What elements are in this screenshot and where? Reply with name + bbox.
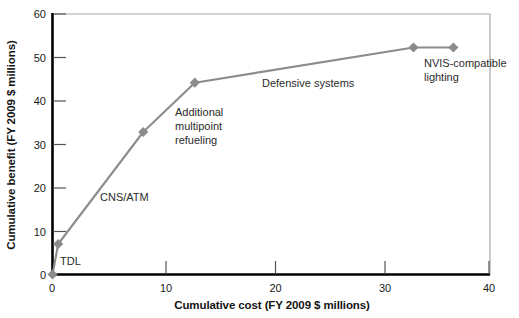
x-tick-label: 30 — [379, 282, 391, 294]
annotation-nvis-line1: NVIS-compatible — [424, 57, 507, 69]
data-point-marker — [408, 42, 418, 52]
x-tick-label: 0 — [49, 282, 55, 294]
series-line — [53, 48, 454, 275]
x-axis-title: Cumulative cost (FY 2009 $ millions) — [174, 299, 370, 311]
annotation-multipoint-line2: multipoint — [175, 120, 222, 132]
y-tick-labels: 60 50 40 30 20 10 0 — [34, 8, 46, 281]
y-tick-label: 50 — [34, 52, 46, 64]
annotation-multipoint-line1: Additional — [175, 106, 223, 118]
data-point-marker — [47, 269, 57, 279]
annotation-tdl: TDL — [60, 255, 81, 267]
plot-frame — [52, 14, 490, 275]
y-tick-label: 40 — [34, 95, 46, 107]
y-axis-title: Cumulative benefit (FY 2009 $ millions) — [5, 40, 17, 250]
y-tick-label: 60 — [34, 8, 46, 20]
y-tick-label: 10 — [34, 226, 46, 238]
y-axis-ticks — [53, 14, 66, 232]
annotation-multipoint-refueling: Additional multipoint refueling — [175, 106, 223, 146]
annotation-nvis-line2: lighting — [424, 71, 459, 83]
y-tick-label: 20 — [34, 182, 46, 194]
series-markers — [47, 42, 458, 279]
y-tick-label: 0 — [40, 269, 46, 281]
y-tick-label: 30 — [34, 139, 46, 151]
chart-container: 60 50 40 30 20 10 0 0 10 20 30 40 Cumula… — [0, 0, 519, 318]
cumulative-cost-benefit-chart: 60 50 40 30 20 10 0 0 10 20 30 40 Cumula… — [0, 0, 519, 318]
x-tick-label: 10 — [160, 282, 172, 294]
data-point-marker — [448, 42, 458, 52]
x-tick-label: 20 — [269, 282, 281, 294]
annotation-cns-atm: CNS/ATM — [100, 191, 149, 203]
x-axis-ticks — [166, 261, 489, 274]
annotation-multipoint-line3: refueling — [175, 134, 217, 146]
annotation-nvis-lighting: NVIS-compatible lighting — [424, 57, 507, 83]
x-tick-labels: 0 10 20 30 40 — [49, 282, 495, 294]
annotation-defensive-systems: Defensive systems — [262, 77, 355, 89]
x-tick-label: 40 — [483, 282, 495, 294]
